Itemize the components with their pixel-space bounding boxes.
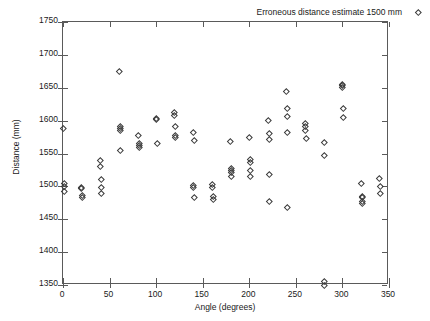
y-tick-right (382, 55, 387, 56)
data-point (340, 105, 346, 111)
y-tick-inner (63, 55, 68, 56)
x-axis-title: Angle (degrees) (62, 302, 388, 312)
y-tick-label: 1400 (14, 246, 58, 255)
legend: Erroneous distance estimate 1500 mm (256, 7, 422, 17)
x-tick (249, 283, 250, 288)
scatter-chart-figure: 135014001450150015501600165017001750 050… (0, 0, 430, 321)
x-tick-inner (156, 278, 157, 283)
data-point (98, 176, 104, 182)
diamond-icon (415, 9, 421, 15)
data-point (172, 123, 178, 129)
y-tick-label: 1350 (14, 279, 58, 288)
data-point (135, 132, 141, 138)
data-point (117, 147, 123, 153)
data-point (209, 184, 215, 190)
data-point (358, 180, 364, 186)
data-point (247, 173, 253, 179)
x-tick-inner (203, 278, 204, 283)
x-tick (156, 283, 157, 288)
x-tick (296, 283, 297, 288)
data-point (265, 117, 271, 123)
data-point (376, 175, 382, 181)
x-axis-tick-labels: 050100150200250300350 (62, 290, 388, 302)
x-tick (342, 283, 343, 288)
x-tick-inner (249, 278, 250, 283)
x-tick-label: 100 (135, 290, 175, 299)
x-tick (110, 283, 111, 288)
data-point (377, 183, 383, 189)
data-point (116, 68, 122, 74)
data-point (284, 113, 290, 119)
x-tick-label: 200 (228, 290, 268, 299)
y-tick-right (382, 285, 387, 286)
x-tick (389, 283, 390, 288)
x-tick-label: 150 (182, 290, 222, 299)
x-tick-inner (389, 278, 390, 283)
y-tick-label: 1750 (14, 16, 58, 25)
data-point (377, 190, 383, 196)
x-tick-label: 300 (321, 290, 361, 299)
y-tick-right (382, 154, 387, 155)
data-point (228, 173, 234, 179)
y-tick-inner (63, 121, 68, 122)
data-point (154, 140, 160, 146)
data-point (246, 134, 252, 140)
x-tick (203, 283, 204, 288)
y-tick-right (382, 22, 387, 23)
x-tick-top (110, 22, 111, 27)
x-tick-label: 0 (42, 290, 82, 299)
data-point (98, 190, 104, 196)
x-tick-inner (63, 278, 64, 283)
y-axis-title: Distance (mm) (11, 87, 21, 207)
plot-area (62, 21, 388, 284)
data-point (284, 129, 290, 135)
data-point (321, 152, 327, 158)
y-tick-inner (63, 252, 68, 253)
data-point (97, 163, 103, 169)
data-point (172, 112, 178, 118)
data-point (359, 200, 365, 206)
legend-label: Erroneous distance estimate 1500 mm (256, 7, 402, 17)
data-point (302, 127, 308, 133)
x-tick-inner (110, 278, 111, 283)
data-point (191, 194, 197, 200)
data-point (227, 138, 233, 144)
y-tick-right (382, 219, 387, 220)
data-point (191, 137, 197, 143)
x-tick-top (249, 22, 250, 27)
x-tick-top (296, 22, 297, 27)
data-point (283, 88, 289, 94)
data-point (267, 171, 273, 177)
x-tick-inner (342, 278, 343, 283)
data-point (266, 136, 272, 142)
x-tick-top (156, 22, 157, 27)
x-tick (63, 283, 64, 288)
y-tick-label: 1450 (14, 213, 58, 222)
data-point (247, 159, 253, 165)
data-point (60, 125, 66, 131)
x-tick-inner (296, 278, 297, 283)
data-point (321, 139, 327, 145)
y-tick-inner (63, 219, 68, 220)
y-tick-right (382, 121, 387, 122)
x-tick-top (342, 22, 343, 27)
data-point (284, 204, 290, 210)
legend-diamond-marker (415, 9, 422, 16)
x-tick-top (203, 22, 204, 27)
x-tick-top (63, 22, 64, 27)
data-point (266, 198, 272, 204)
y-tick-right (382, 88, 387, 89)
data-point (303, 135, 309, 141)
data-point (190, 129, 196, 135)
x-tick-label: 250 (275, 290, 315, 299)
y-tick-inner (63, 154, 68, 155)
data-point (340, 114, 346, 120)
y-tick-right (382, 252, 387, 253)
data-point (284, 105, 290, 111)
y-tick-inner (63, 88, 68, 89)
data-point (61, 188, 67, 194)
x-tick-top (389, 22, 390, 27)
x-tick-label: 50 (89, 290, 129, 299)
y-tick-label: 1700 (14, 49, 58, 58)
x-tick-label: 350 (368, 290, 408, 299)
